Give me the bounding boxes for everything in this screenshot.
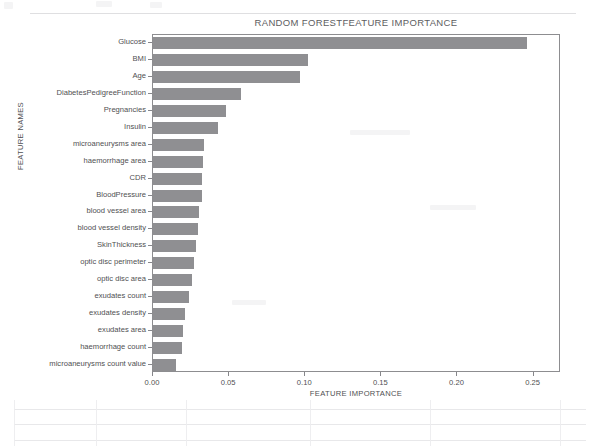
y-tick-label: Pregnancies xyxy=(104,106,146,114)
y-tick xyxy=(148,296,152,297)
x-tick-label: 0.20 xyxy=(449,378,464,387)
plot-area xyxy=(152,34,560,372)
bar-glucose xyxy=(153,37,527,49)
bar-fill xyxy=(153,274,192,286)
bar-cdr xyxy=(153,173,202,185)
y-tick-label: SkinThickness xyxy=(97,241,146,249)
y-tick-label: optic disc perimeter xyxy=(80,258,146,266)
bar-fill xyxy=(153,308,185,320)
bar-fill xyxy=(153,122,218,134)
bar-fill xyxy=(153,37,527,49)
y-tick-label: Glucose xyxy=(118,38,146,46)
y-tick-label: exudates count xyxy=(94,292,146,300)
y-tick xyxy=(148,262,152,263)
bar-age xyxy=(153,71,300,83)
y-axis-title: FEATURE NAMES xyxy=(16,102,25,170)
y-tick xyxy=(148,161,152,162)
bar-optic-disc-perimeter xyxy=(153,257,194,269)
y-tick-label: microaneurysms area xyxy=(73,140,146,148)
bar-fill xyxy=(153,105,226,117)
bar-insulin xyxy=(153,122,218,134)
bar-fill xyxy=(153,71,300,83)
y-tick xyxy=(148,195,152,196)
y-tick xyxy=(148,347,152,348)
feature-importance-chart: RANDOM FORESTFEATURE IMPORTANCE FEATURE … xyxy=(0,0,594,446)
x-tick xyxy=(304,372,305,376)
y-tick xyxy=(148,245,152,246)
y-tick-label: haemorrhage count xyxy=(80,343,146,351)
y-tick xyxy=(148,59,152,60)
bar-fill xyxy=(153,257,194,269)
y-tick xyxy=(148,228,152,229)
bar-blood-vessel-area xyxy=(153,206,199,218)
y-tick-label: blood vessel area xyxy=(86,207,146,215)
bar-fill xyxy=(153,240,196,252)
y-tick xyxy=(148,364,152,365)
y-tick-label: microaneurysms count value xyxy=(49,360,146,368)
bar-fill xyxy=(153,139,204,151)
x-tick-label: 0.00 xyxy=(145,378,160,387)
bar-diabetespedigreefunction xyxy=(153,88,241,100)
y-tick xyxy=(148,76,152,77)
bar-blood-vessel-density xyxy=(153,223,198,235)
y-tick-label: BloodPressure xyxy=(96,191,146,199)
x-tick xyxy=(533,372,534,376)
bar-fill xyxy=(153,342,182,354)
y-tick-label: haemorrhage area xyxy=(84,157,146,165)
y-tick-label: Age xyxy=(132,72,146,80)
y-tick-label: blood vessel density xyxy=(78,224,146,232)
x-tick-label: 0.05 xyxy=(221,378,236,387)
x-tick-label: 0.10 xyxy=(297,378,312,387)
bar-haemorrhage-area xyxy=(153,156,203,168)
x-tick-label: 0.15 xyxy=(373,378,388,387)
x-tick xyxy=(456,372,457,376)
bar-fill xyxy=(153,359,176,371)
bar-fill xyxy=(153,325,183,337)
x-tick-label: 0.25 xyxy=(525,378,540,387)
bar-fill xyxy=(153,206,199,218)
bar-bmi xyxy=(153,54,308,66)
y-tick xyxy=(148,330,152,331)
bar-fill xyxy=(153,223,198,235)
bar-fill xyxy=(153,190,202,202)
bar-fill xyxy=(153,173,202,185)
bar-exudates-area xyxy=(153,325,183,337)
chart-title: RANDOM FORESTFEATURE IMPORTANCE xyxy=(152,17,560,28)
bar-fill xyxy=(153,291,189,303)
y-tick xyxy=(148,127,152,128)
bar-skinthickness xyxy=(153,240,196,252)
x-axis-title: FEATURE IMPORTANCE xyxy=(152,389,560,398)
y-tick-label: BMI xyxy=(132,55,146,63)
bar-exudates-density xyxy=(153,308,185,320)
bar-bloodpressure xyxy=(153,190,202,202)
y-tick xyxy=(148,313,152,314)
bar-series xyxy=(153,35,559,371)
bar-fill xyxy=(153,88,241,100)
y-tick xyxy=(148,42,152,43)
y-tick-label: CDR xyxy=(130,174,146,182)
y-tick xyxy=(148,110,152,111)
bar-optic-disc-area xyxy=(153,274,192,286)
y-tick xyxy=(148,211,152,212)
x-tick xyxy=(380,372,381,376)
y-tick xyxy=(148,178,152,179)
bar-exudates-count xyxy=(153,291,189,303)
bar-microaneurysms-count-value xyxy=(153,359,176,371)
y-tick xyxy=(148,144,152,145)
y-tick-label: optic disc area xyxy=(97,275,146,283)
y-tick-label: exudates area xyxy=(98,326,146,334)
y-tick-label: DiabetesPedigreeFunction xyxy=(57,89,147,97)
y-tick xyxy=(148,279,152,280)
bar-fill xyxy=(153,54,308,66)
x-tick xyxy=(152,372,153,376)
x-tick xyxy=(228,372,229,376)
bar-microaneurysms-area xyxy=(153,139,204,151)
y-tick-label: exudates density xyxy=(89,309,146,317)
y-tick-label: Insulin xyxy=(124,123,146,131)
bar-pregnancies xyxy=(153,105,226,117)
bar-haemorrhage-count xyxy=(153,342,182,354)
y-tick xyxy=(148,93,152,94)
bar-fill xyxy=(153,156,203,168)
